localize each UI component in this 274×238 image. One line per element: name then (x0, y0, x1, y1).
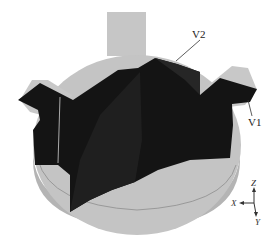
v1-leader-line (248, 100, 252, 116)
top-post (107, 12, 146, 56)
cad-model-figure: V2 V1 Z X Y (0, 0, 274, 238)
y-axis-label: Y (255, 217, 261, 227)
z-axis-label: Z (251, 178, 257, 188)
v2-label: V2 (192, 28, 205, 40)
v1-label: V1 (248, 116, 261, 128)
v2-leader-line (176, 40, 200, 61)
x-axis-label: X (230, 198, 237, 208)
x-arrowhead-icon (239, 201, 244, 205)
